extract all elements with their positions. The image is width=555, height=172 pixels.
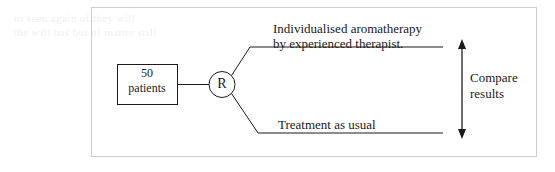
arm-label-control: Treatment as usual (278, 117, 376, 132)
population-box-label: 50 patients (117, 66, 177, 96)
arrow-head-up-icon (458, 39, 466, 49)
compare-results-label: Compare results (470, 70, 518, 102)
branch-line-intervention-diagonal (232, 47, 251, 76)
arrow-head-down-icon (458, 129, 466, 139)
arm-label-intervention: Individualised aromatherapy by experienc… (273, 21, 422, 51)
randomisation-label: R (210, 75, 234, 93)
branch-line-control-diagonal (232, 94, 259, 134)
compare-arrow (458, 39, 466, 139)
figure-canvas: to seen again of they will the will has … (0, 0, 555, 172)
